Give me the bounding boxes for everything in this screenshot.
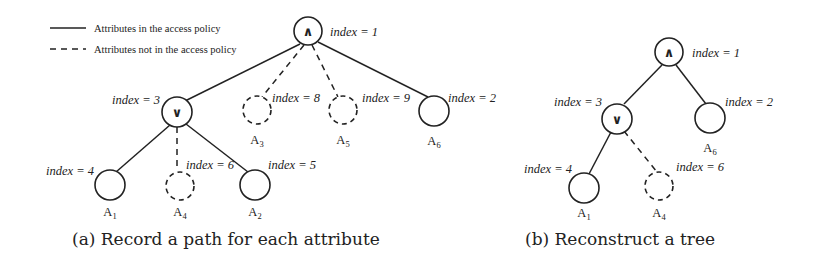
legend-dashed-label: Attributes not in the access policy [94, 44, 237, 55]
caption-a: (a) Record a path for each attribute [72, 229, 380, 249]
or-symbol: ∨ [172, 105, 183, 120]
attribute-node-a2 [240, 170, 270, 200]
index-label: index = 2 [725, 95, 773, 109]
and-symbol: ∧ [664, 45, 675, 60]
attribute-label-a2: A2 [248, 205, 261, 221]
edge-or-a4 [624, 131, 657, 172]
index-label: index = 1 [330, 25, 378, 39]
edge-root-a6 [676, 65, 706, 104]
index-label: index = 2 [448, 91, 496, 105]
index-label: index = 8 [272, 91, 321, 105]
index-label: index = 1 [692, 46, 740, 60]
attribute-label-a3: A3 [250, 133, 263, 149]
legend: Attributes in the access policy Attribut… [50, 23, 237, 55]
index-label: index = 4 [524, 162, 572, 176]
edge-or-a1 [116, 125, 170, 172]
index-label: index = 3 [554, 95, 602, 109]
edge-root-or [624, 65, 662, 104]
attribute-label-a6: A6 [703, 141, 716, 157]
and-symbol: ∧ [303, 24, 314, 39]
index-label: index = 3 [112, 93, 160, 107]
edge-root-a5 [312, 45, 338, 97]
attribute-node-a1 [569, 173, 599, 203]
index-label: index = 4 [46, 164, 94, 178]
caption-b: (b) Reconstruct a tree [525, 229, 715, 249]
attribute-node-a4 [645, 172, 673, 200]
index-label: index = 6 [676, 160, 725, 174]
attribute-node-a5 [329, 96, 357, 124]
attribute-node-a1 [95, 170, 125, 200]
index-label: index = 5 [268, 158, 316, 172]
attribute-label-a5: A5 [336, 133, 349, 149]
attribute-label-a1: A1 [103, 205, 116, 221]
attribute-label-a4: A4 [652, 206, 666, 222]
attribute-node-a4 [166, 172, 194, 200]
edge-or-a1 [589, 132, 611, 174]
index-label: index = 6 [186, 158, 235, 172]
tree-b: ∧ index = 1 ∨ index = 3 index = 2 A6 ind… [524, 38, 773, 222]
legend-solid-label: Attributes in the access policy [94, 23, 221, 34]
attribute-node-a6 [419, 96, 449, 126]
attribute-label-a1: A1 [577, 206, 590, 222]
attribute-label-a6: A6 [427, 134, 440, 150]
attribute-node-a6 [695, 103, 725, 133]
index-label: index = 9 [362, 91, 411, 105]
attribute-label-a4: A4 [173, 205, 187, 221]
attribute-node-a3 [243, 96, 271, 124]
or-symbol: ∨ [612, 112, 623, 127]
